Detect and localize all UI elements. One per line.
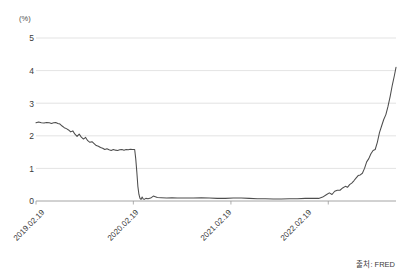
y-tick-label-3: 3: [16, 99, 34, 109]
x-tick-marks-group: [36, 201, 328, 205]
y-axis-unit-label: (%): [19, 14, 31, 23]
y-tick-label-5: 5: [16, 33, 34, 43]
chart-container: (%) 5 4 3 2 1 0 2019.02.19 2020.02.19 20…: [0, 0, 403, 274]
source-note: 출처: FRED: [356, 258, 395, 269]
y-tick-label-0: 0: [16, 196, 34, 206]
y-tick-label-2: 2: [16, 131, 34, 141]
y-tick-label-4: 4: [16, 66, 34, 76]
data-line-series-federal-funds-rate: [36, 67, 396, 199]
y-tick-label-1: 1: [16, 164, 34, 174]
gridlines-group: [36, 38, 396, 201]
